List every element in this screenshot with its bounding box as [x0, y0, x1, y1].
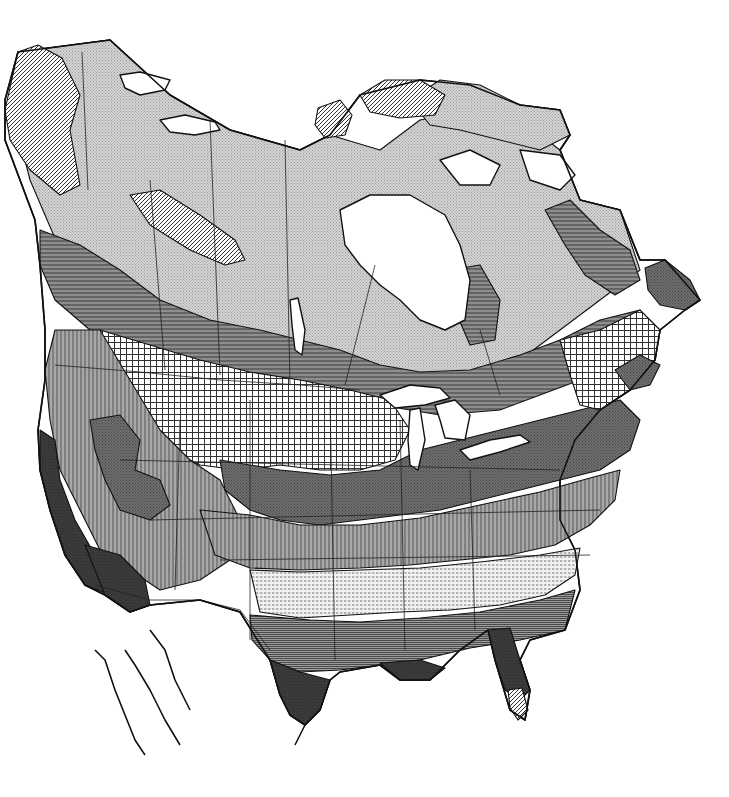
- zone-map: [0, 0, 729, 797]
- north-america-zone-map: [0, 0, 729, 797]
